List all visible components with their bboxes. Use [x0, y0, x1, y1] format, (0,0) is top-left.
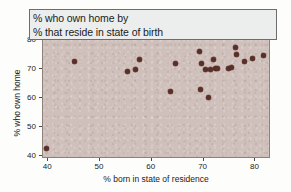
data-point	[234, 52, 239, 57]
data-point	[133, 67, 138, 72]
x-axis-tick-mark	[254, 158, 255, 161]
data-point	[137, 57, 142, 62]
data-point	[233, 45, 238, 50]
data-point	[44, 146, 49, 151]
scatter-chart-figure: % who own home by % that reside in state…	[0, 0, 291, 192]
data-point	[229, 65, 234, 70]
data-point	[211, 57, 216, 62]
chart-title-line-1: % who own home by	[33, 11, 276, 25]
y-axis-tick-mark	[39, 155, 42, 156]
data-point	[261, 53, 266, 58]
x-axis-tick-label: 40	[43, 162, 52, 171]
data-point	[203, 67, 208, 72]
data-point	[173, 61, 178, 66]
y-axis-tick-mark	[39, 126, 42, 127]
y-axis-tick-label: 40	[27, 151, 36, 160]
y-axis-tick-label: 60	[27, 93, 36, 102]
chart-title-line-2: % that reside in state of birth	[33, 25, 276, 39]
chart-title-box: % who own home by % that reside in state…	[29, 9, 277, 40]
y-axis-tick-mark	[39, 68, 42, 69]
y-axis-tick-mark	[39, 97, 42, 98]
plot-area	[42, 38, 270, 158]
x-axis-tick-mark	[151, 158, 152, 161]
y-axis-label: % who own home	[12, 48, 22, 158]
data-point	[125, 69, 130, 74]
data-point	[72, 59, 77, 64]
x-axis-tick-mark	[203, 158, 204, 161]
x-axis-tick-mark	[47, 158, 48, 161]
data-point	[168, 89, 173, 94]
data-point	[250, 56, 255, 61]
x-axis-tick-mark	[99, 158, 100, 161]
y-axis-tick-label: 50	[27, 122, 36, 131]
x-axis-tick-label: 60	[146, 162, 155, 171]
data-point	[215, 66, 220, 71]
x-axis-tick-label: 50	[95, 162, 104, 171]
data-point	[199, 61, 204, 66]
x-axis-tick-label: 70	[198, 162, 207, 171]
y-axis-tick-label: 70	[27, 64, 36, 73]
data-point	[206, 95, 211, 100]
data-point	[242, 59, 247, 64]
x-axis-label: % born in state of residence	[42, 174, 270, 184]
data-point	[197, 49, 202, 54]
x-axis-tick-label: 80	[250, 162, 259, 171]
data-point	[198, 87, 203, 92]
